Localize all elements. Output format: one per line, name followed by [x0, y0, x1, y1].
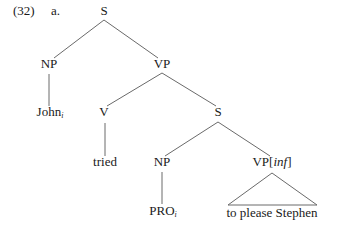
- example-letter: a.: [51, 4, 60, 18]
- vp-inf-feature: inf: [273, 154, 287, 169]
- node-s-root: S: [100, 4, 107, 18]
- node-pro: PROi: [149, 204, 177, 222]
- edge-s-vp-inf: [218, 122, 270, 156]
- node-vp-inf-yield: to please Stephen: [227, 206, 318, 220]
- node-v: V: [99, 105, 108, 119]
- john-index: i: [61, 111, 63, 120]
- vp-inf-label: VP[: [252, 154, 273, 169]
- edge-s-np: [54, 20, 104, 58]
- pro-word: PRO: [149, 203, 174, 218]
- edge-vp-v: [107, 73, 162, 106]
- edge-s-vp: [104, 20, 158, 58]
- node-john: Johni: [37, 105, 64, 123]
- node-tried: tried: [93, 155, 117, 169]
- john-word: John: [37, 104, 62, 119]
- node-np-subject: NP: [41, 57, 58, 71]
- pro-index: i: [175, 210, 177, 219]
- node-s-embedded: S: [214, 105, 221, 119]
- vp-inf-close: ]: [287, 154, 291, 169]
- node-np-embedded: NP: [154, 155, 171, 169]
- example-number: (32): [13, 4, 35, 18]
- triangle-vp-inf: [228, 173, 317, 205]
- node-vp-main: VP: [154, 57, 171, 71]
- edge-vp-s: [162, 73, 216, 106]
- node-vp-inf: VP[inf]: [252, 155, 291, 169]
- edge-s-np-embedded: [165, 122, 218, 156]
